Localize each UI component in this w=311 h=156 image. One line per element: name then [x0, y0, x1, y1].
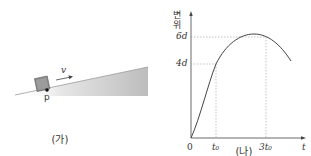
x-axis-arrow-icon	[301, 136, 306, 139]
panel-b-graph: 변위 6d 4d 0 t₀ 3t₀ t (나)	[160, 0, 311, 156]
point-p-label: p	[44, 92, 50, 102]
x-tick-3t0: 3t₀	[259, 142, 272, 152]
caption-a: (가)	[52, 131, 69, 146]
velocity-label: v	[61, 65, 66, 75]
displacement-time-chart	[160, 0, 311, 156]
guide-lines	[191, 37, 266, 138]
y-axis-label: 변위	[172, 10, 182, 30]
x-tick-t0: t₀	[212, 142, 219, 152]
caption-b-visible: (나)	[236, 143, 253, 156]
y-axis-arrow-icon	[189, 11, 192, 16]
x-axis-label: t	[302, 142, 306, 152]
velocity-arrow-icon	[56, 75, 73, 80]
panel-a-incline-diagram: v p (가)	[0, 0, 160, 156]
y-tick-4d: 4d	[176, 58, 188, 68]
incline-figure	[0, 0, 160, 156]
origin-label: 0	[187, 142, 193, 152]
y-tick-6d: 6d	[176, 31, 188, 41]
displacement-curve	[191, 34, 291, 138]
